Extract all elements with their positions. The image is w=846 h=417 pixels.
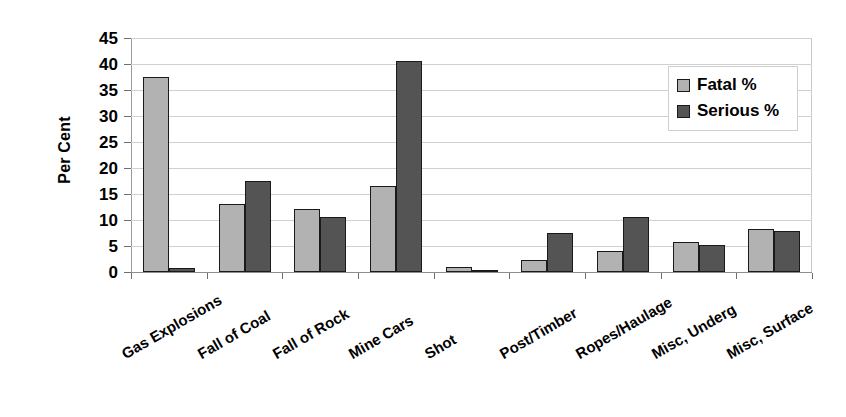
y-tick-mark (124, 194, 131, 195)
legend-label-fatal: Fatal % (697, 75, 757, 95)
bar (774, 231, 800, 272)
bar (169, 268, 195, 272)
x-tick-mark (282, 273, 283, 279)
bar (597, 251, 623, 272)
y-tick-mark (124, 90, 131, 91)
gridline (131, 168, 812, 169)
y-tick-mark (124, 116, 131, 117)
x-axis-category-label: Fall of Rock (270, 305, 352, 362)
bar (245, 181, 271, 272)
x-axis-line (131, 272, 812, 273)
bar (547, 233, 573, 272)
y-tick-mark (124, 220, 131, 221)
bar (294, 209, 320, 272)
x-tick-mark (434, 273, 435, 279)
y-tick-label: 15 (74, 186, 118, 203)
bar (143, 77, 169, 272)
bar (370, 186, 396, 272)
bar (396, 61, 422, 272)
y-axis-title: Per Cent (56, 90, 74, 210)
x-tick-mark (585, 273, 586, 279)
gridline (131, 194, 812, 195)
x-axis-category-label: Post/Timber (497, 304, 580, 362)
y-tick-label: 40 (74, 56, 118, 73)
y-tick-label: 45 (74, 30, 118, 47)
gridline (131, 142, 812, 143)
gridline (131, 38, 812, 39)
bar (748, 229, 774, 272)
y-tick-mark (124, 272, 131, 273)
bar (521, 260, 547, 272)
gridline (131, 64, 812, 65)
y-tick-mark (124, 246, 131, 247)
legend-item-fatal: Fatal % (677, 72, 789, 98)
bar-chart: Per Cent 051015202530354045 Gas Explosio… (0, 0, 846, 417)
y-tick-label: 10 (74, 212, 118, 229)
x-tick-mark (661, 273, 662, 279)
x-tick-mark (736, 273, 737, 279)
bar (219, 204, 245, 272)
bar (320, 217, 346, 272)
legend-item-serious: Serious % (677, 98, 789, 124)
y-tick-mark (124, 168, 131, 169)
y-tick-mark (124, 64, 131, 65)
legend-swatch-serious-icon (677, 105, 690, 118)
x-tick-mark (131, 273, 132, 279)
y-tick-label: 35 (74, 82, 118, 99)
y-tick-label: 30 (74, 108, 118, 125)
x-tick-mark (207, 273, 208, 279)
bar (623, 217, 649, 272)
y-tick-label: 0 (74, 264, 118, 281)
bar (673, 242, 699, 272)
x-tick-mark (358, 273, 359, 279)
x-axis-category-label: Shot (422, 331, 459, 362)
legend-swatch-fatal-icon (677, 79, 690, 92)
legend-label-serious: Serious % (697, 101, 779, 121)
y-tick-mark (124, 142, 131, 143)
bar (472, 270, 498, 272)
y-tick-label: 5 (74, 238, 118, 255)
x-axis-category-label: Mine Cars (346, 311, 417, 362)
x-tick-mark (509, 273, 510, 279)
bar (699, 245, 725, 272)
y-tick-label: 25 (74, 134, 118, 151)
x-axis-category-label: Misc, Surface (724, 299, 816, 362)
bar (446, 267, 472, 272)
chart-legend: Fatal % Serious % (668, 66, 798, 131)
x-tick-mark (812, 273, 813, 279)
y-tick-mark (124, 38, 131, 39)
y-tick-label: 20 (74, 160, 118, 177)
